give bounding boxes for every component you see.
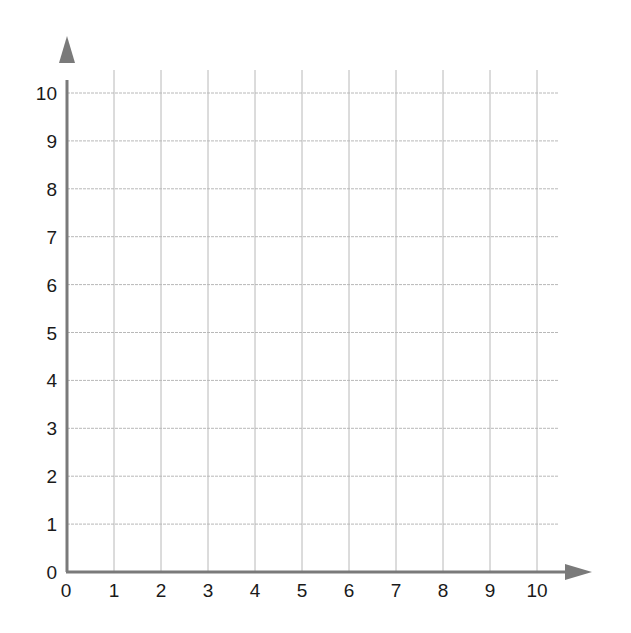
x-tick-label: 7 <box>391 580 402 601</box>
x-tick-label: 4 <box>250 580 261 601</box>
y-tick-label: 9 <box>46 131 57 152</box>
x-tick-label: 10 <box>526 580 547 601</box>
y-tick-label: 6 <box>46 275 57 296</box>
y-axis-arrow-icon <box>59 36 75 63</box>
x-axis-arrow-icon <box>565 564 592 580</box>
y-tick-labels: 012345678910 <box>36 83 58 583</box>
y-tick-label: 4 <box>46 370 57 391</box>
coordinate-grid: 012345678910 012345678910 <box>0 0 631 633</box>
y-tick-label: 2 <box>46 466 57 487</box>
x-tick-label: 5 <box>297 580 308 601</box>
y-tick-label: 5 <box>46 323 57 344</box>
y-tick-label: 3 <box>46 418 57 439</box>
y-tick-label: 8 <box>46 179 57 200</box>
x-tick-labels: 012345678910 <box>61 580 548 601</box>
grid-lines <box>67 70 558 572</box>
y-tick-label: 7 <box>46 227 57 248</box>
axes <box>59 36 592 580</box>
x-tick-label: 3 <box>203 580 214 601</box>
y-tick-label: 1 <box>46 514 57 535</box>
y-tick-label: 10 <box>36 83 57 104</box>
x-tick-label: 0 <box>61 580 72 601</box>
x-tick-label: 8 <box>438 580 449 601</box>
x-tick-label: 2 <box>156 580 167 601</box>
x-tick-label: 6 <box>344 580 355 601</box>
x-tick-label: 9 <box>485 580 496 601</box>
x-tick-label: 1 <box>109 580 120 601</box>
y-tick-label: 0 <box>46 562 57 583</box>
